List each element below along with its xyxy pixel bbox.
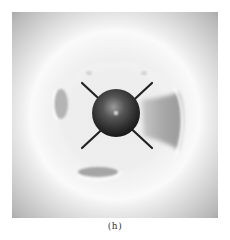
bottom-lobe-shadow [78,167,118,177]
sphere-highlight [114,111,118,115]
figure-panel-image [12,12,218,218]
left-lobe-shadow [54,89,68,119]
figure-caption: (h) [0,221,230,231]
figure: (h) [0,0,230,240]
density-rendering [12,12,218,218]
top-right-dot [141,71,147,75]
top-left-dot [86,71,92,75]
